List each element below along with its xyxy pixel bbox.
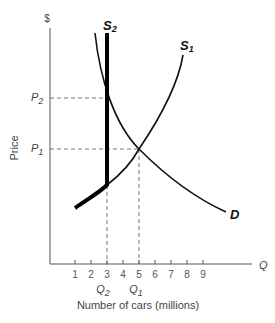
q1-label: Q1 bbox=[129, 283, 143, 298]
q2-label: Q2 bbox=[96, 283, 110, 298]
svg-text:3: 3 bbox=[104, 269, 110, 280]
supply-demand-diagram: $ Price Q 1 2 3 4 5 6 7 8 9 Q2 Q1 Number… bbox=[0, 0, 275, 323]
svg-text:1: 1 bbox=[72, 269, 78, 280]
svg-text:2: 2 bbox=[88, 269, 94, 280]
supply-curve-s2-lower bbox=[75, 185, 107, 208]
x-axis-label: Number of cars (millions) bbox=[77, 299, 199, 311]
svg-text:8: 8 bbox=[184, 269, 190, 280]
guide-lines bbox=[50, 98, 139, 264]
x-axis-symbol: Q bbox=[259, 259, 268, 271]
svg-text:5: 5 bbox=[136, 269, 142, 280]
s2-label: S2 bbox=[103, 18, 117, 34]
svg-text:9: 9 bbox=[200, 269, 206, 280]
svg-text:7: 7 bbox=[168, 269, 174, 280]
d-label: D bbox=[230, 207, 240, 222]
p1-label: P1 bbox=[31, 142, 43, 157]
demand-curve-d bbox=[95, 33, 226, 212]
y-axis-label: Price bbox=[8, 135, 20, 160]
s1-label: S1 bbox=[180, 38, 194, 54]
x-tick-labels: 1 2 3 4 5 6 7 8 9 bbox=[72, 269, 206, 280]
svg-text:4: 4 bbox=[120, 269, 126, 280]
p2-label: P2 bbox=[31, 91, 43, 106]
y-axis-unit: $ bbox=[44, 13, 50, 24]
svg-text:6: 6 bbox=[152, 269, 158, 280]
